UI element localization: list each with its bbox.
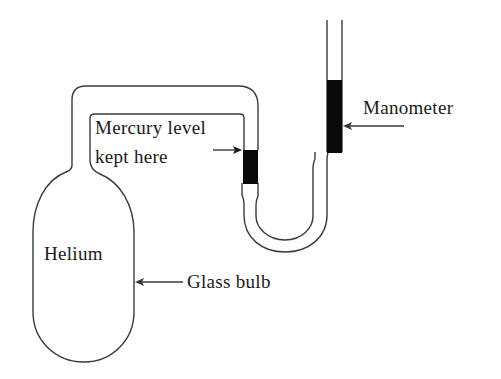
label-glass-bulb: Glass bulb	[187, 269, 271, 295]
mercury-column-manometer	[327, 80, 342, 153]
label-manometer: Manometer	[363, 95, 453, 121]
mercury-column-left	[243, 150, 258, 184]
u-tube-outer	[256, 152, 315, 240]
label-helium: Helium	[44, 241, 103, 267]
apparatus-drawing	[0, 0, 501, 379]
label-mercury-level-line1: Mercury level	[95, 115, 206, 141]
label-mercury-level-line2: kept here	[95, 144, 168, 170]
